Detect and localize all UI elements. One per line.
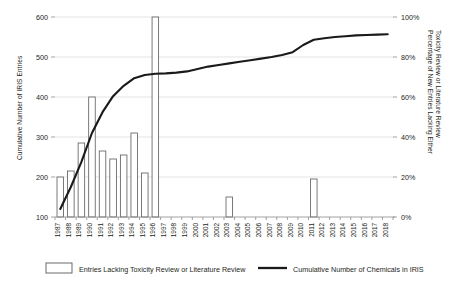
x-tick-label: 1998 bbox=[170, 223, 177, 238]
x-tick-label: 2012 bbox=[318, 223, 325, 238]
right-tick-label: 60% bbox=[401, 93, 416, 102]
x-tick-label: 2010 bbox=[297, 223, 304, 238]
left-tick-label: 200 bbox=[36, 173, 48, 182]
dual-axis-bar-line-chart: 100200300400500600 0%20%40%60%80%100% 19… bbox=[0, 0, 462, 290]
bar bbox=[152, 17, 159, 217]
x-tick-label: 2018 bbox=[382, 223, 389, 238]
right-tick-label: 80% bbox=[401, 53, 416, 62]
x-tick-label: 1991 bbox=[97, 223, 104, 238]
right-tick-label: 40% bbox=[401, 133, 416, 142]
x-tick-label: 1996 bbox=[149, 223, 156, 238]
bar bbox=[131, 133, 138, 217]
x-tick-label: 2004 bbox=[234, 223, 241, 238]
left-axis-title: Cumulative Number of IRIS Entries bbox=[16, 55, 23, 160]
left-tick-label: 100 bbox=[36, 213, 48, 222]
left-tick-label: 300 bbox=[36, 133, 48, 142]
x-tick-label: 2003 bbox=[223, 223, 230, 238]
left-tick-label: 400 bbox=[36, 93, 48, 102]
x-tick-label: 2013 bbox=[329, 223, 336, 238]
x-tick-label: 2006 bbox=[255, 223, 262, 238]
left-tick-label: 600 bbox=[36, 13, 48, 22]
x-tick-label: 2002 bbox=[213, 223, 220, 238]
x-tick-label: 1989 bbox=[75, 223, 82, 238]
x-tick-label: 2017 bbox=[371, 223, 378, 238]
chart-background bbox=[0, 0, 462, 290]
x-tick-label: 2008 bbox=[276, 223, 283, 238]
legend-label-line: Cumulative Number of Chemicals in IRIS bbox=[293, 265, 424, 274]
bar bbox=[226, 197, 233, 217]
x-tick-label: 2001 bbox=[202, 223, 209, 238]
bar bbox=[142, 173, 149, 217]
bar bbox=[311, 179, 318, 217]
legend-label-bars: Entries Lacking Toxicity Review or Liter… bbox=[79, 265, 246, 274]
x-tick-label: 1988 bbox=[65, 223, 72, 238]
right-tick-label: 20% bbox=[401, 173, 416, 182]
x-tick-label: 2007 bbox=[266, 223, 273, 238]
x-tick-label: 1997 bbox=[160, 223, 167, 238]
bar bbox=[57, 177, 64, 217]
right-tick-label: 0% bbox=[401, 213, 412, 222]
bar bbox=[89, 97, 96, 217]
x-tick-label: 1990 bbox=[86, 223, 93, 238]
x-tick-label: 2016 bbox=[361, 223, 368, 238]
bar bbox=[110, 159, 117, 217]
x-tick-label: 2009 bbox=[287, 223, 294, 238]
legend-bar-swatch bbox=[46, 263, 72, 273]
x-tick-label: 1994 bbox=[128, 223, 135, 238]
bar bbox=[99, 151, 106, 217]
x-tick-label: 1992 bbox=[107, 223, 114, 238]
bar bbox=[120, 155, 127, 217]
left-tick-label: 500 bbox=[36, 53, 48, 62]
x-tick-label: 2015 bbox=[350, 223, 357, 238]
x-tick-label: 2014 bbox=[339, 223, 346, 238]
x-tick-label: 2005 bbox=[244, 223, 251, 238]
x-tick-label: 1993 bbox=[118, 223, 125, 238]
chart-legend: Entries Lacking Toxicity Review or Liter… bbox=[46, 263, 424, 274]
right-axis-title-line2: Toxicity Review or Literature Review bbox=[434, 30, 442, 138]
right-axis-title-line1: Percentage of New Entries Lacking Either bbox=[426, 30, 434, 155]
x-tick-label: 2000 bbox=[192, 223, 199, 238]
x-tick-label: 1995 bbox=[139, 223, 146, 238]
x-tick-label: 2011 bbox=[308, 223, 315, 237]
x-tick-label: 1987 bbox=[54, 223, 61, 238]
chart-container: 100200300400500600 0%20%40%60%80%100% 19… bbox=[0, 0, 462, 290]
right-tick-label: 100% bbox=[401, 13, 420, 22]
x-tick-label: 1999 bbox=[181, 223, 188, 238]
